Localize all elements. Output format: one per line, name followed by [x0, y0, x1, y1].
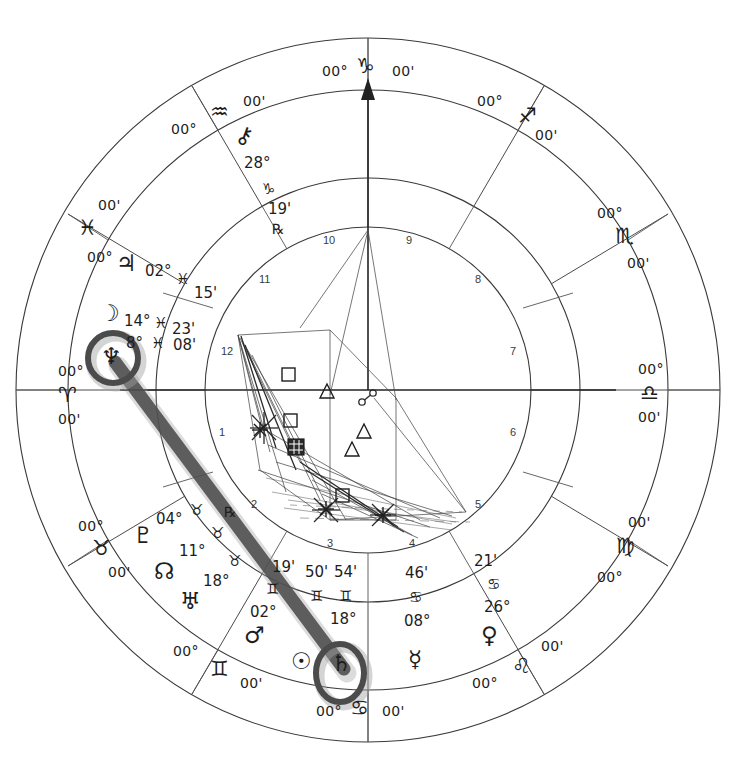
saturn-minute: 54'	[334, 565, 357, 580]
sign-degree-leo: 00°	[472, 676, 498, 690]
moon-glyph[interactable]: ☽	[99, 302, 120, 325]
aspect-symbol-conjunction	[288, 439, 304, 455]
sun-sign-glyph: ♊	[310, 589, 323, 604]
sign-minute-leo: 00'	[541, 639, 564, 653]
venus-sign-glyph: ♋	[487, 577, 500, 592]
sign-degree-aries: 00°	[58, 364, 84, 378]
sign-glyph-pisces: ♓	[78, 218, 97, 239]
sign-degree-libra: 00°	[638, 362, 664, 376]
sign-glyph-libra: ♎	[640, 383, 659, 404]
house-number-1: 1	[219, 427, 225, 438]
saturn-sign-glyph: ♊	[339, 589, 352, 604]
mercury-degree: 08°	[404, 614, 431, 629]
sign-minute-libra: 00'	[638, 410, 661, 424]
sign-degree-capricorn: 00°	[322, 64, 348, 78]
chiron-sign-glyph: ♑	[262, 182, 275, 197]
sign-degree-gemini: 00°	[173, 644, 199, 658]
pluto-degree: 04°	[156, 512, 183, 527]
sign-minute-cancer: 00'	[382, 704, 405, 718]
jupiter-degree: 02°	[145, 264, 172, 279]
venus-degree: 26°	[484, 600, 511, 615]
uranus-glyph[interactable]: ♅	[180, 590, 201, 613]
moon-degree: 14°	[124, 314, 151, 329]
sign-minute-taurus: 00'	[108, 565, 131, 579]
sign-glyph-capricorn: ♑	[356, 56, 375, 77]
house-number-3: 3	[327, 538, 333, 549]
north-node-degree: 11°	[179, 544, 206, 559]
house-number-6: 6	[510, 427, 516, 438]
chiron-degree: 28°	[244, 156, 271, 171]
sign-degree-sagittarius: 00°	[477, 94, 503, 108]
mercury-minute: 46'	[405, 566, 428, 581]
mars-sign-glyph: ♊	[266, 582, 279, 597]
sign-degree-aquarius: 00°	[171, 122, 197, 136]
sign-minute-pisces: 00'	[98, 198, 121, 212]
aspect-symbol-opposition	[359, 390, 376, 405]
sun-glyph[interactable]: ☉	[291, 650, 312, 673]
aspect-symbol-square-1	[282, 368, 295, 381]
house-number-12: 12	[221, 346, 233, 357]
venus-minute: 21'	[474, 554, 497, 569]
aspect-web	[238, 230, 470, 538]
house-number-10: 10	[323, 235, 335, 246]
house-number-5: 5	[475, 499, 481, 510]
jupiter-sign-glyph: ♓	[176, 272, 189, 287]
sign-glyph-aries: ♈	[58, 385, 77, 406]
sign-glyph-scorpio: ♏	[615, 226, 634, 247]
sign-minute-capricorn: 00'	[392, 64, 415, 78]
jupiter-minute: 15'	[194, 286, 217, 301]
moon-sign-glyph: ♓	[154, 316, 167, 331]
mercury-sign-glyph: ♋	[409, 590, 422, 605]
sign-glyph-leo: ♌	[512, 656, 531, 677]
moon-minute: 23'	[172, 322, 195, 337]
saturn-degree: 18°	[330, 612, 357, 627]
neptune-glyph[interactable]: ♆	[101, 345, 122, 368]
sign-minute-virgo: 00'	[628, 515, 651, 529]
venus-glyph[interactable]: ♀	[481, 624, 498, 647]
pluto-glyph[interactable]: ♇	[133, 524, 154, 547]
aspect-symbol-trine-2	[357, 424, 371, 438]
neptune-degree: 8°	[126, 336, 143, 351]
sign-minute-sagittarius: 00'	[535, 128, 558, 142]
chart-canvas	[0, 0, 737, 770]
sign-glyph-cancer: ♋	[350, 698, 369, 719]
saturn-glyph[interactable]: ♄	[331, 652, 352, 675]
jupiter-glyph[interactable]: ♃	[116, 252, 137, 275]
sign-glyph-taurus: ♉	[92, 538, 111, 559]
sign-degree-pisces: 00°	[87, 250, 113, 264]
sign-glyph-gemini: ♊	[210, 659, 229, 680]
house-number-8: 8	[475, 274, 481, 285]
mars-minute: 19'	[272, 560, 295, 575]
sign-degree-taurus: 00°	[78, 519, 104, 533]
mercury-glyph[interactable]: ☿	[408, 648, 422, 671]
house-number-7: 7	[510, 346, 516, 357]
midheaven-arrow-head	[361, 78, 375, 100]
sign-minute-scorpio: 00'	[627, 256, 650, 270]
aspect-symbol-sextile-1	[252, 422, 268, 438]
aspect-symbol-sextile-2	[318, 501, 334, 517]
sign-minute-gemini: 00'	[240, 676, 263, 690]
aspect-symbol-trine-3	[345, 442, 359, 456]
north-node-retrograde: ℞	[224, 505, 237, 519]
north-node-sign-glyph: ♉	[211, 526, 224, 541]
sign-glyph-virgo: ♍	[616, 536, 635, 557]
neptune-minute: 08'	[173, 338, 196, 353]
pluto-sign-glyph: ♉	[190, 503, 203, 518]
natal-chart-wheel: 00° ♈ 00' 00° ♉ 00' 00° ♊ 00' 00° ♋ 00' …	[0, 0, 737, 770]
chiron-retrograde: ℞	[272, 222, 285, 236]
house-number-11: 11	[259, 274, 270, 285]
north-node-glyph[interactable]: ☊	[154, 560, 174, 583]
house-number-4: 4	[409, 538, 415, 549]
sign-minute-aries: 00'	[58, 412, 81, 426]
sign-glyph-aquarius: ♒	[210, 102, 229, 123]
mars-degree: 02°	[250, 605, 277, 620]
mars-glyph[interactable]: ♂	[244, 624, 265, 647]
neptune-sign-glyph: ♓	[151, 336, 164, 351]
sign-minute-aquarius: 00'	[243, 94, 266, 108]
sign-degree-virgo: 00°	[597, 570, 623, 584]
sign-glyph-sagittarius: ♐	[518, 106, 537, 127]
uranus-degree: 18°	[203, 574, 230, 589]
house-number-9: 9	[406, 235, 412, 246]
sign-degree-cancer: 00°	[316, 704, 342, 718]
sun-minute: 50'	[305, 565, 328, 580]
